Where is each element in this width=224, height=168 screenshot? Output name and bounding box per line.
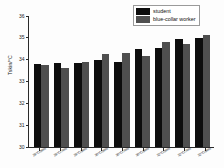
legend-item[interactable]: student [136,8,196,15]
bar-chart: Tskin/°C 30313233343536 28°C/50%28°C/70%… [0,0,224,168]
bar-group [112,17,132,147]
bar-worker[interactable] [162,42,170,147]
bar-student[interactable] [54,63,62,147]
chart-legend: studentblue-collar worker [133,5,200,26]
legend-label: student [153,8,171,14]
bar-worker[interactable] [183,44,191,147]
legend-item[interactable]: blue-collar worker [136,16,196,23]
bar-group [152,17,172,147]
legend-label: blue-collar worker [153,16,196,22]
bar-group [173,17,193,147]
bar-group [71,17,91,147]
bar-student[interactable] [135,49,143,147]
bar-student[interactable] [114,62,122,147]
y-tick-mark [26,81,29,82]
bar-student[interactable] [74,63,82,147]
y-tick-label: 34 [19,56,25,62]
bar-worker[interactable] [82,62,90,147]
bar-student[interactable] [175,39,183,147]
y-tick-label: 36 [19,13,25,19]
y-tick-mark [26,103,29,104]
bar-student[interactable] [155,48,163,147]
bar-group [31,17,51,147]
bar-student[interactable] [94,60,102,147]
y-tick-label: 33 [19,78,25,84]
bar-groups-container [30,17,214,147]
bar-worker[interactable] [61,68,69,147]
bar-group [92,17,112,147]
y-tick-mark [26,16,29,17]
bar-group [132,17,152,147]
legend-swatch [136,16,150,23]
y-tick-label: 35 [19,34,25,40]
bar-worker[interactable] [122,53,130,147]
y-tick-mark [26,59,29,60]
x-axis-tick-labels: 28°C/50%28°C/70%28°C/90%30°C/50%30°C/70%… [28,150,214,168]
y-tick-label: 31 [19,122,25,128]
legend-swatch [136,8,150,15]
bar-worker[interactable] [142,56,150,147]
bar-group [193,17,213,147]
bar-worker[interactable] [41,65,49,147]
bar-group [51,17,71,147]
y-axis-label: Tskin/°C [7,42,13,88]
y-tick-label: 32 [19,100,25,106]
y-tick-mark [26,125,29,126]
plot-area: 30313233343536 [28,17,214,148]
bar-worker[interactable] [102,54,110,147]
y-tick-mark [26,37,29,38]
bar-worker[interactable] [203,35,211,147]
bar-student[interactable] [195,38,203,147]
bar-student[interactable] [34,64,42,147]
y-tick-label: 30 [19,144,25,150]
